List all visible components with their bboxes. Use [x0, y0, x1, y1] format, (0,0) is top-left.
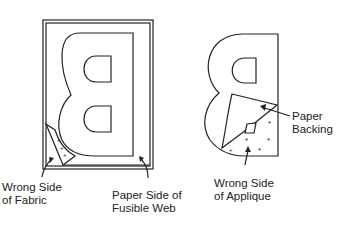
right-panel-drawing: * * * * +: [205, 34, 290, 165]
label-line: of Fabric: [2, 194, 62, 207]
svg-text:+: +: [60, 145, 64, 151]
label-wrong-side-applique: Wrong Side of Applique: [214, 177, 274, 203]
label-paper-side-fusible-web: Paper Side of Fusible Web: [112, 189, 182, 215]
label-paper-backing: Paper Backing: [292, 110, 333, 136]
label-line: of Applique: [214, 190, 274, 203]
svg-text:*: *: [258, 146, 261, 155]
label-line: Backing: [292, 123, 333, 136]
svg-text:*: *: [267, 136, 270, 145]
label-line: Paper Side of: [112, 189, 182, 202]
svg-text:*: *: [268, 119, 271, 128]
svg-text:+: +: [229, 147, 233, 153]
svg-text:+: +: [63, 152, 67, 158]
label-line: Fusible Web: [112, 202, 182, 215]
label-line: Wrong Side: [214, 177, 274, 190]
svg-text:*: *: [245, 136, 248, 145]
label-wrong-side-fabric: Wrong Side of Fabric: [2, 181, 62, 207]
left-panel-drawing: + + +: [42, 20, 153, 178]
label-line: Paper: [292, 110, 333, 123]
label-line: Wrong Side: [2, 181, 62, 194]
svg-text:+: +: [57, 137, 61, 143]
